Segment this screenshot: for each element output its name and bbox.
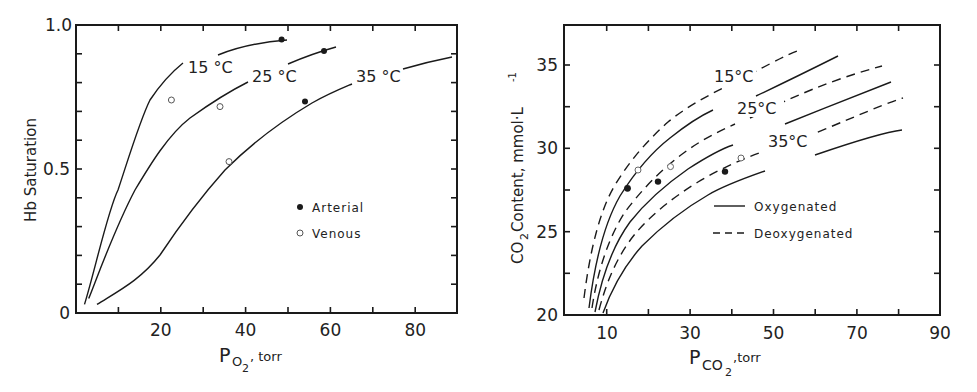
right-y-tick-label: 35 [536,55,558,75]
right-x-tick-label: 10 [596,323,618,343]
right-chart: 10 30 50 70 90 20 25 30 35 CO 2 Content,… [507,25,951,379]
left-x-tick-label: 40 [235,320,257,340]
right-curve-label-15c: 15°C [714,67,754,86]
arterial-point [722,168,728,174]
left-y-ticks [76,54,457,284]
legend-label-arterial: Arterial [312,201,364,215]
venous-point [168,97,174,103]
curve-15c-oxygenated-upper [756,56,838,96]
svg-text:CO: CO [702,357,723,373]
left-curve-35c [97,57,452,304]
arterial-point [655,178,661,184]
right-legend: Oxygenated Deoxygenated [713,200,853,241]
svg-text:O: O [232,354,242,369]
venous-point [217,104,223,110]
svg-text:,torr: ,torr [733,350,761,365]
arterial-point [321,48,327,54]
right-curve-label-35c: 35°C [768,132,808,151]
venous-point [226,159,232,165]
svg-text:Content, mmol·L: Content, mmol·L [509,106,527,232]
left-curve-25c [89,47,336,299]
left-x-tick-label: 20 [150,320,172,340]
curve-25c-deoxygenated [592,124,735,308]
legend-label-oxygenated: Oxygenated [754,200,837,214]
arterial-point [624,185,631,192]
legend-label-venous: Venous [312,227,361,241]
arterial-legend-marker [297,204,303,210]
left-curve-label-25c: 25 °C [252,67,297,86]
venous-point [668,164,674,170]
left-curve-label-35c: 35 °C [356,67,401,86]
right-y-axis-title: CO 2 Content, mmol·L -1 [507,72,531,264]
arterial-point [302,98,308,104]
left-legend: Arterial Venous [297,201,364,241]
svg-text:, torr: , torr [250,349,282,364]
right-y-tick-label: 25 [536,222,558,242]
right-x-axis-title: P CO 2 ,torr [689,346,761,379]
left-y-tick-label: 0.5 [43,159,70,179]
svg-text:2: 2 [725,366,732,379]
left-venous-points [168,97,232,165]
curve-25c-oxygenated-upper [785,82,891,124]
left-chart: 20 40 60 80 0 0.5 1.0 Hb Saturation P O … [22,15,457,375]
right-curve-label-25c: 25°C [737,99,777,118]
curve-15c-oxygenated [589,110,713,308]
left-x-tick-label: 80 [404,320,426,340]
legend-label-deoxygenated: Deoxygenated [754,227,853,241]
svg-text:2: 2 [242,362,249,375]
curve-15c-deoxygenated [584,87,725,298]
svg-text:-1: -1 [507,72,518,82]
right-x-tick-label: 30 [679,323,701,343]
right-y-tick-label: 30 [536,138,558,158]
left-y-axis-title: Hb Saturation [22,118,40,222]
venous-point [635,167,641,173]
svg-text:P: P [689,346,700,368]
svg-text:P: P [219,344,230,366]
curve-35c-oxygenated [603,171,765,313]
curve-35c-oxygenated-upper [815,130,902,155]
left-x-tick-label: 60 [320,320,342,340]
svg-text:CO: CO [509,242,527,264]
right-y-tick-label: 20 [536,305,558,325]
left-y-tick-label: 0 [59,303,70,323]
right-x-tick-label: 70 [846,323,868,343]
svg-text:2: 2 [518,233,531,240]
right-x-tick-label: 50 [763,323,785,343]
right-x-tick-label: 90 [929,323,951,343]
left-y-tick-label: 1.0 [45,15,72,35]
figure: 20 40 60 80 0 0.5 1.0 Hb Saturation P O … [0,0,977,392]
venous-point [738,155,744,161]
right-curves-15c [584,50,838,308]
venous-legend-marker [297,230,303,236]
left-curve-label-15c: 15 °C [188,58,233,77]
left-x-axis-title: P O 2 , torr [219,344,282,375]
right-y-ticks [564,65,940,273]
arterial-point [279,36,285,42]
